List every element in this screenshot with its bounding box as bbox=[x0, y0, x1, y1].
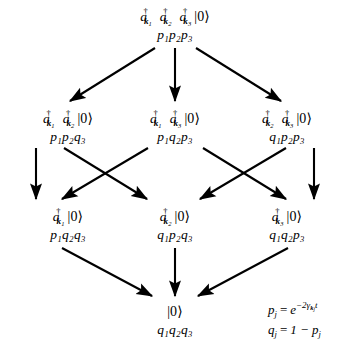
prob-factor-q2: q2 bbox=[281, 227, 293, 242]
node-state-label: a†k1a†k2|0⟩ bbox=[43, 110, 93, 126]
one-minus-p: 1 − pj bbox=[290, 322, 321, 337]
prob-factor-q1: q1 bbox=[157, 322, 169, 337]
edge-group bbox=[36, 48, 314, 296]
equals-sign: = bbox=[277, 302, 290, 317]
creation-operator-k1: a†k1 bbox=[53, 208, 73, 223]
prob-factor-p1: p1 bbox=[157, 27, 169, 42]
node-probability-label: p1q2p3 bbox=[150, 130, 200, 144]
creation-operator-k2: a†k2 bbox=[262, 110, 282, 125]
node-k3: a†k3|0⟩ q1q2p3 bbox=[269, 208, 304, 241]
arrow-n3-k1k2k3-to-n2-k1k2 bbox=[70, 48, 155, 101]
prob-factor-q3: q3 bbox=[74, 129, 86, 144]
creation-operator-k3: a†k3 bbox=[272, 208, 292, 223]
node-vacuum: |0⟩ q1q2q3 bbox=[157, 305, 192, 337]
arrow-n3-k1k2k3-to-n2-k2k3 bbox=[196, 48, 281, 101]
prob-factor-p2: p2 bbox=[169, 27, 181, 42]
arrow-n1-k1-to-n0-vacuum bbox=[62, 248, 152, 296]
creation-operator-k2: a†k2 bbox=[160, 8, 180, 23]
node-k2: a†k2|0⟩ q1p2q3 bbox=[157, 208, 192, 241]
node-probability-label: p1p2q3 bbox=[43, 130, 93, 144]
prob-factor-p3: p3 bbox=[181, 27, 193, 42]
arrow-n1-k3-to-n0-vacuum bbox=[198, 248, 288, 296]
creation-operator-k1: a†k1 bbox=[150, 110, 170, 125]
node-state-label: a†k1a†k2a†k3|0⟩ bbox=[140, 8, 210, 24]
node-probability-label: p1p2p3 bbox=[140, 28, 210, 42]
prob-factor-q1: q1 bbox=[269, 129, 281, 144]
prob-factor-q1: q1 bbox=[157, 227, 169, 242]
prob-factor-p3: p3 bbox=[181, 129, 193, 144]
prob-factor-q2: q2 bbox=[169, 129, 181, 144]
formula-complement-probability: qj=1 − pj bbox=[268, 320, 321, 340]
node-state-label: a†k2|0⟩ bbox=[157, 208, 192, 224]
node-three-excitation: a†k1a†k2a†k3|0⟩ p1p2p3 bbox=[140, 8, 210, 41]
decay-cascade-diagram: a†k1a†k2a†k3|0⟩ p1p2p3 a†k1a†k2|0⟩ p1p2q… bbox=[0, 0, 362, 356]
node-state-label: a†k3|0⟩ bbox=[269, 208, 304, 224]
prob-factor-p1: p1 bbox=[50, 227, 62, 242]
creation-operator-k3: a†k3 bbox=[180, 8, 200, 23]
formula-decay-probability: pj=e−2γkjt bbox=[268, 300, 321, 320]
formula-legend: pj=e−2γkjt qj=1 − pj bbox=[268, 300, 321, 341]
creation-operator-k3: a†k3 bbox=[282, 110, 302, 125]
exponential-term: e−2γkjt bbox=[290, 302, 317, 317]
prob-factor-q2: q2 bbox=[169, 322, 181, 337]
ket-vacuum: |0⟩ bbox=[167, 304, 183, 319]
node-probability-label: q1q2q3 bbox=[157, 323, 192, 337]
creation-operator-k2: a†k2 bbox=[63, 110, 83, 125]
equals-sign: = bbox=[277, 322, 290, 337]
creation-operator-k2: a†k2 bbox=[160, 208, 180, 223]
node-probability-label: p1q2q3 bbox=[50, 228, 85, 242]
node-probability-label: q1q2p3 bbox=[269, 228, 304, 242]
p-symbol: pj bbox=[268, 302, 277, 317]
prob-factor-q1: q1 bbox=[269, 227, 281, 242]
prob-factor-q3: q3 bbox=[74, 227, 86, 242]
node-state-label: |0⟩ bbox=[157, 305, 192, 319]
node-state-label: a†k1a†k3|0⟩ bbox=[150, 110, 200, 126]
creation-operator-k3: a†k3 bbox=[170, 110, 190, 125]
creation-operator-k1: a†k1 bbox=[140, 8, 160, 23]
node-k1: a†k1|0⟩ p1q2q3 bbox=[50, 208, 85, 241]
node-state-label: a†k1|0⟩ bbox=[50, 208, 85, 224]
prob-factor-p1: p1 bbox=[50, 129, 62, 144]
prob-factor-p3: p3 bbox=[293, 129, 305, 144]
q-symbol: qj bbox=[268, 322, 277, 337]
prob-factor-p1: p1 bbox=[157, 129, 169, 144]
prob-factor-p2: p2 bbox=[281, 129, 293, 144]
prob-factor-q3: q3 bbox=[181, 227, 193, 242]
creation-operator-k1: a†k1 bbox=[43, 110, 63, 125]
prob-factor-p3: p3 bbox=[293, 227, 305, 242]
node-state-label: a†k2a†k3|0⟩ bbox=[262, 110, 312, 126]
prob-factor-q3: q3 bbox=[181, 322, 193, 337]
node-probability-label: q1p2q3 bbox=[157, 228, 192, 242]
prob-factor-p2: p2 bbox=[62, 129, 74, 144]
prob-factor-q2: q2 bbox=[62, 227, 74, 242]
node-probability-label: q1p2p3 bbox=[262, 130, 312, 144]
prob-factor-p2: p2 bbox=[169, 227, 181, 242]
node-k2k3: a†k2a†k3|0⟩ q1p2p3 bbox=[262, 110, 312, 143]
node-k1k3: a†k1a†k3|0⟩ p1q2p3 bbox=[150, 110, 200, 143]
node-k1k2: a†k1a†k2|0⟩ p1p2q3 bbox=[43, 110, 93, 143]
